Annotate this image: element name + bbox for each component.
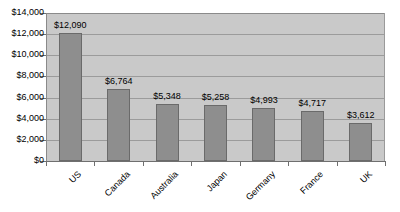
- bar-value-label: $3,612: [331, 111, 391, 120]
- bar-value-label: $4,717: [282, 99, 342, 108]
- x-axis-tick-mark: [46, 161, 47, 166]
- bar: [59, 33, 82, 161]
- bar: [301, 111, 324, 161]
- x-axis-line: [46, 161, 385, 162]
- gridline: [47, 13, 384, 14]
- y-axis-tick-label: $6,000: [0, 93, 44, 102]
- x-axis-tick-mark: [191, 161, 192, 166]
- bar-value-label: $12,090: [40, 21, 100, 30]
- x-axis-category-label: France: [276, 169, 325, 212]
- bar: [349, 123, 372, 161]
- y-axis-tick-label: $2,000: [0, 135, 44, 144]
- x-axis-category-label: Canada: [82, 169, 131, 212]
- gridline: [47, 34, 384, 35]
- x-axis-tick-mark: [94, 161, 95, 166]
- x-axis-tick-mark: [337, 161, 338, 166]
- bar: [204, 105, 227, 161]
- y-axis-tick-label: $0: [0, 156, 44, 165]
- y-axis-tick-label: $14,000: [0, 8, 44, 17]
- bar: [107, 89, 130, 161]
- x-axis-category-label: Japan: [179, 169, 228, 212]
- x-axis-tick-mark: [385, 161, 386, 166]
- y-axis-tick-label: $4,000: [0, 114, 44, 123]
- x-axis-category-label: US: [34, 169, 83, 212]
- bar-value-label: $6,764: [89, 77, 149, 86]
- x-axis-category-label: UK: [324, 169, 373, 212]
- y-axis-tick-label: $10,000: [0, 50, 44, 59]
- gridline: [47, 55, 384, 56]
- y-axis-tick-label: $8,000: [0, 71, 44, 80]
- x-axis-tick-mark: [288, 161, 289, 166]
- x-axis-category-label: Australia: [131, 169, 180, 212]
- bar: [156, 104, 179, 161]
- bar: [252, 108, 275, 161]
- x-axis-tick-mark: [143, 161, 144, 166]
- x-axis-tick-mark: [240, 161, 241, 166]
- x-axis-category-label: Germany: [227, 169, 276, 212]
- bar-chart: $0$2,000$4,000$6,000$8,000$10,000$12,000…: [0, 0, 400, 212]
- y-axis-tick-label: $12,000: [0, 29, 44, 38]
